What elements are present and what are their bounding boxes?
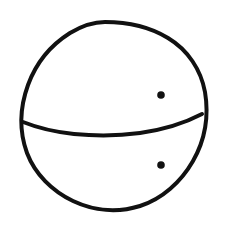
canvas-background [0,0,226,231]
sketch-drawing [0,0,226,231]
sketch-canvas [0,0,226,231]
lower-dot-shape [157,161,165,169]
upper-dot-shape [157,91,165,99]
